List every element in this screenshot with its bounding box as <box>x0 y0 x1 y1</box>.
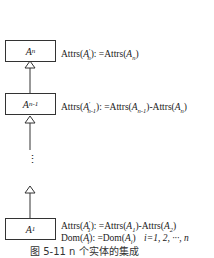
arrowhead-icon <box>25 186 35 193</box>
attrs-label-an-1: Attrs(A′n-1): =Attrs(An-1)-Attrs(An) <box>61 98 187 116</box>
arrowhead-icon <box>25 61 35 68</box>
node-subscript: n <box>32 47 36 55</box>
entity-box-an: An <box>5 40 56 62</box>
entity-box-an-1: An-1 <box>5 93 56 115</box>
figure-caption: 图 5-11 n 个实体的集成 <box>30 243 139 258</box>
entity-box-a1: A1 <box>5 218 56 240</box>
node-subscript: 1 <box>32 225 36 233</box>
arrowhead-icon <box>25 116 35 123</box>
ellipsis-vertical: ⋮ <box>27 154 38 165</box>
node-subscript: n-1 <box>29 100 38 108</box>
attrs-label-an: Attrs(A′n): =Attrs(An) <box>61 45 139 63</box>
